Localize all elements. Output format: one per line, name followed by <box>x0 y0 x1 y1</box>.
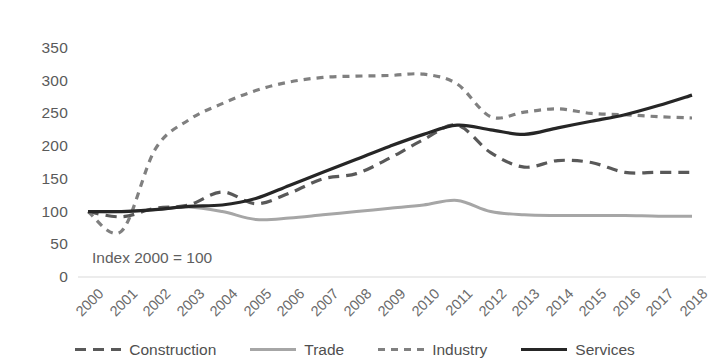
line-chart: 350300250200150100500 200020012002200320… <box>0 0 710 361</box>
legend-label-construction: Construction <box>129 342 216 358</box>
legend-swatch-construction-icon <box>75 348 121 351</box>
legend-swatch-industry-icon <box>378 348 424 351</box>
legend-item-industry[interactable]: Industry <box>378 342 487 358</box>
legend-item-trade[interactable]: Trade <box>250 342 344 358</box>
series-line-construction <box>88 125 692 217</box>
legend-swatch-trade-icon <box>250 348 296 351</box>
series-line-trade <box>88 200 692 220</box>
plot-area <box>0 0 710 361</box>
chart-legend: Construction Trade Industry Services <box>0 342 710 358</box>
index-base-annotation: Index 2000 = 100 <box>92 250 212 266</box>
legend-label-services: Services <box>575 342 634 358</box>
legend-swatch-services-icon <box>521 348 567 351</box>
legend-label-industry: Industry <box>432 342 487 358</box>
legend-item-construction[interactable]: Construction <box>75 342 216 358</box>
legend-item-services[interactable]: Services <box>521 342 634 358</box>
legend-label-trade: Trade <box>304 342 344 358</box>
